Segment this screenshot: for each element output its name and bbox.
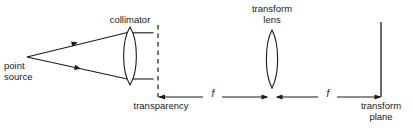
focal-length-1-label: f (205, 88, 221, 99)
transform-lens-outline (266, 30, 277, 88)
collimator-lens-shape (124, 27, 137, 85)
focal-length-1-arrow-right-icon (262, 94, 269, 99)
transparency-label: transparency (127, 100, 195, 111)
transform-plane-label-line2: plane (369, 111, 392, 122)
transform-lens-label: transformlens (247, 3, 297, 25)
ray-direction-arrow-lower-icon (74, 65, 81, 71)
focal-length-2-arrow-left-icon (276, 94, 283, 99)
transform-lens-label-line2: lens (263, 14, 280, 25)
transform-plane-label: transformplane (350, 100, 412, 122)
point-source-label-line1: point (4, 60, 25, 71)
focal-length-2-label: f (320, 88, 336, 99)
focal-length-1-arrow-left-icon (158, 94, 165, 99)
transform-lens-shape (266, 30, 277, 88)
transform-lens-label-line1: transform (252, 3, 292, 14)
point-source-label-line2: source (4, 71, 33, 82)
figure-canvas: collimator transformlens pointsource tra… (0, 0, 413, 130)
collimator-lens-outline (124, 27, 137, 85)
point-source-label: pointsource (4, 60, 48, 82)
diverging-ray-upper-line (27, 33, 128, 58)
collimator-label: collimator (105, 14, 155, 25)
transform-plane-label-line1: transform (361, 100, 401, 111)
